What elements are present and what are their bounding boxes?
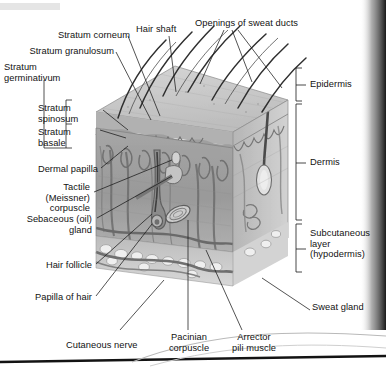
label-stratum-basale: Stratum basale [38,127,100,148]
skin-anatomy-figure: Stratum corneum Hair shaft Openings of s… [0,0,386,373]
label-stratum-spinosum: Stratum spinosum [38,103,100,124]
label-sebaceous-gland: Sebaceous (oil) gland [6,214,92,235]
label-tactile-meissner-corpuscle: Tactile (Meissner) corpuscle [18,182,90,214]
label-stratum-corneum: Stratum corneum [46,30,130,41]
label-papilla-of-hair: Papilla of hair [10,292,92,303]
dermis-front-face [96,128,233,254]
label-stratum-granulosum: Stratum granulosum [16,46,114,57]
label-sweat-gland: Sweat gland [312,302,386,313]
label-hair-follicle: Hair follicle [14,260,92,271]
label-epidermis: Epidermis [310,79,380,90]
label-arrector-pili-muscle: Arrector pili muscle [218,332,290,353]
label-cutaneous-nerve: Cutaneous nerve [66,340,164,351]
label-stratum-germinativum: Stratum germinativum [4,62,80,83]
label-subcutaneous-layer: Subcutaneous layer (hypodermis) [310,228,386,260]
label-pacinian-corpuscle: Pacinian corpuscle [156,332,222,353]
label-openings-of-sweat-ducts: Openings of sweat ducts [195,18,325,29]
label-dermis: Dermis [310,157,380,168]
layer-brackets [296,68,306,272]
label-dermal-papilla: Dermal papilla [12,164,98,175]
